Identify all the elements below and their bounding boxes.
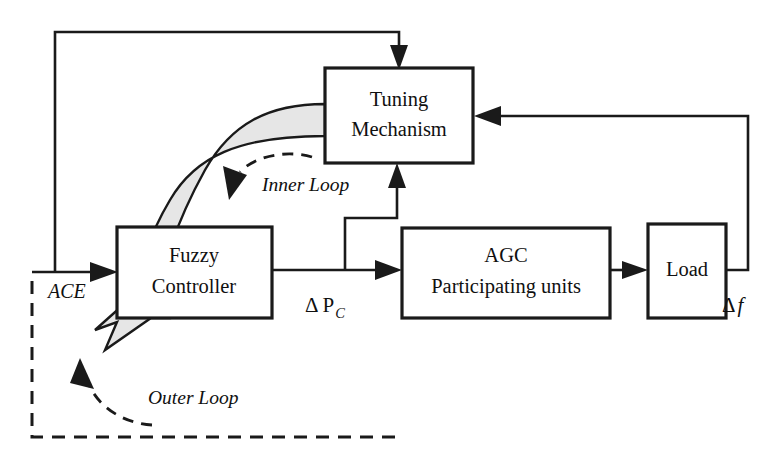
label-outer-loop: Outer Loop [148,387,239,408]
svg-text:Δf: Δf [722,293,747,317]
block-agc-participating-units-rect [402,228,610,318]
arrowhead-into-fuzzy-left [90,262,118,282]
block-fuzzy-controller[interactable]: Fuzzy Controller [117,227,272,318]
wire-deltapc-branch-to-tuning [345,178,397,270]
block-fuzzy-controller-line-2: Controller [152,275,236,297]
arrowhead-into-tuning-top [390,45,408,70]
arrowhead-into-agc-left [375,260,402,280]
block-load[interactable]: Load [648,224,726,318]
arrowhead-inner-loop [223,166,247,200]
block-fuzzy-controller-rect [117,227,272,318]
block-tuning-mechanism-rect [325,68,473,163]
label-delta-f: Δf [722,293,747,317]
block-fuzzy-controller-line-1: Fuzzy [169,244,220,267]
label-delta-f-variable: f [738,293,747,317]
label-delta-pc-base: Δ P [305,293,334,317]
block-tuning-mechanism-line-1: Tuning [370,88,429,111]
block-tuning-mechanism-line-2: Mechanism [351,118,447,140]
annotation-outer-loop-curve [88,382,152,425]
label-inner-loop: Inner Loop [261,174,349,195]
block-tuning-mechanism[interactable]: Tuning Mechanism [325,68,473,163]
block-diagram-root: AGC fuzzy control block diagram with inn… [0,0,783,469]
label-delta-f-base: Δ [722,293,736,317]
block-agc-line-1: AGC [484,244,527,266]
label-delta-pc: Δ PC [305,293,345,321]
block-agc-participating-units[interactable]: AGC Participating units [402,228,610,318]
arrowhead-into-load-left [622,261,648,279]
svg-text:Δ PC: Δ PC [305,293,345,321]
label-delta-pc-subscript: C [335,305,345,321]
block-diagram-canvas: AGC fuzzy control block diagram with inn… [0,0,783,469]
arrowhead-into-tuning-bottom [388,163,406,188]
label-ace: ACE [46,280,86,302]
annotation-inner-loop-curve [240,154,312,172]
arrowhead-into-tuning-right [474,106,501,126]
block-agc-line-2: Participating units [431,275,581,298]
arrowhead-outer-loop [70,358,94,389]
block-load-line-1: Load [666,258,708,280]
